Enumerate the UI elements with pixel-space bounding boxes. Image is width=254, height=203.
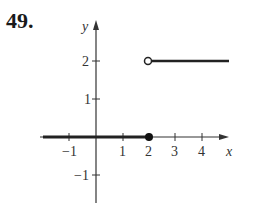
x-axis-label: x	[225, 144, 233, 159]
x-tick-label: 2	[145, 144, 152, 159]
x-tick-label: −1	[62, 144, 77, 159]
open-endpoint-icon	[145, 58, 152, 65]
y-axis-arrow-icon	[93, 20, 99, 30]
y-axis-label: y	[80, 19, 89, 34]
closed-endpoint-icon	[145, 133, 153, 141]
y-tick-label: 1	[84, 92, 91, 107]
y-tick-label: 2	[82, 54, 89, 69]
x-tick-label: 1	[119, 144, 126, 159]
x-axis-arrow-icon	[219, 134, 229, 140]
x-tick-label: 4	[198, 144, 205, 159]
x-tick-label: 3	[171, 144, 178, 159]
y-tick-label: −1	[74, 168, 89, 183]
step-function-graph: y x −1 1 2 3 4 2 1 −1	[0, 0, 254, 203]
